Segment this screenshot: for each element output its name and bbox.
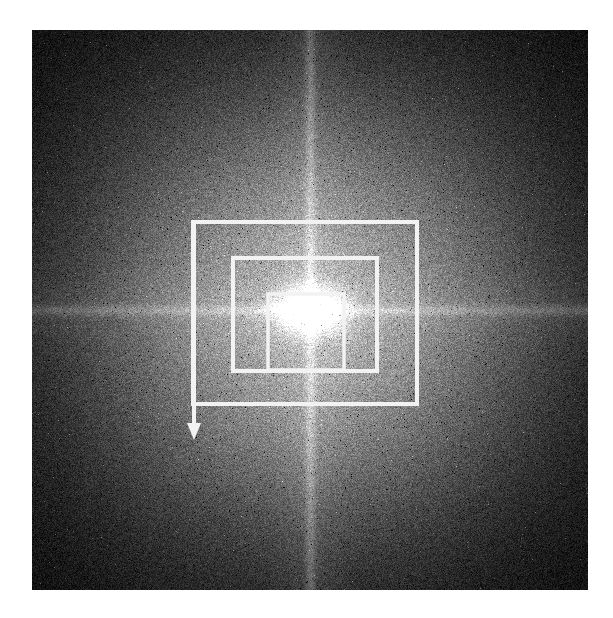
fft-spectrum-panel xyxy=(32,30,588,590)
figure-root xyxy=(0,0,613,618)
spectrum-speckle-canvas xyxy=(32,30,588,590)
